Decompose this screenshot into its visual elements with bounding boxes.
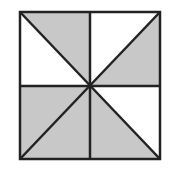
grid-lines: [20, 12, 160, 159]
pinwheel-diagram: [0, 0, 172, 169]
